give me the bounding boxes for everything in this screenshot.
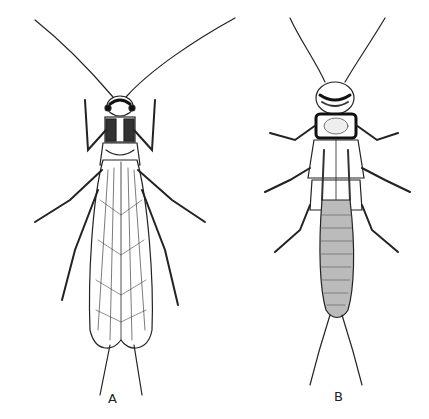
panel-label-a: A xyxy=(108,391,117,406)
nymph-insect xyxy=(265,18,410,385)
adult-insect xyxy=(35,18,235,395)
illustration-a xyxy=(0,0,429,419)
panel-label-b: B xyxy=(334,389,343,404)
